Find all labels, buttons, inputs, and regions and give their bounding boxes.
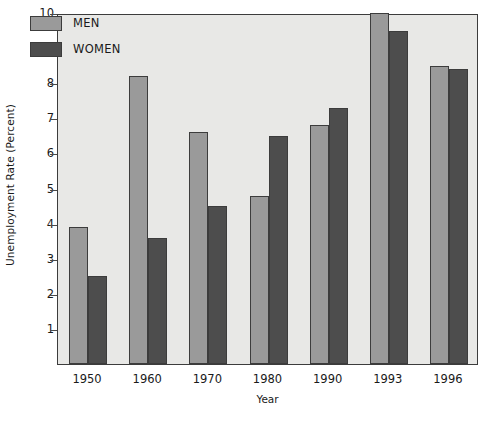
x-tick-label-1970: 1970 <box>177 372 237 386</box>
bar-1990-women <box>329 108 348 364</box>
x-tick-label-1996: 1996 <box>418 372 478 386</box>
legend-swatch-women <box>30 42 62 57</box>
y-tick-mark <box>50 154 57 155</box>
y-tick-mark <box>50 330 57 331</box>
bar-1993-women <box>389 31 408 364</box>
bar-1960-women <box>148 238 167 364</box>
bar-1950-men <box>69 227 88 364</box>
bar-1996-men <box>430 66 449 364</box>
y-tick-mark <box>50 225 57 226</box>
bar-1950-women <box>88 276 107 364</box>
x-tick-label-1990: 1990 <box>298 372 358 386</box>
legend-item-men: MEN <box>30 12 180 34</box>
bar-chart: Unemployment Rate (Percent) 12345678910 … <box>0 0 496 422</box>
legend-item-women: WOMEN <box>30 38 180 60</box>
legend-label: MEN <box>73 16 100 30</box>
y-tick-mark <box>50 190 57 191</box>
x-tick-label-1980: 1980 <box>238 372 298 386</box>
bar-1970-women <box>208 206 227 364</box>
bar-1996-women <box>449 69 468 364</box>
bar-1960-men <box>129 76 148 364</box>
bar-1970-men <box>189 132 208 364</box>
y-tick-mark <box>50 295 57 296</box>
y-tick-mark <box>50 260 57 261</box>
x-tick-label-1960: 1960 <box>117 372 177 386</box>
x-axis-title: Year <box>57 393 478 405</box>
legend-label: WOMEN <box>73 42 121 56</box>
y-tick-mark <box>50 119 57 120</box>
y-tick-mark <box>50 84 57 85</box>
x-tick-label-1950: 1950 <box>57 372 117 386</box>
plot-area <box>57 14 478 365</box>
y-axis-title-text: Unemployment Rate (Percent) <box>4 104 16 266</box>
bar-1993-men <box>370 13 389 364</box>
y-axis-title: Unemployment Rate (Percent) <box>0 0 20 370</box>
bar-1990-men <box>310 125 329 364</box>
x-tick-label-1993: 1993 <box>358 372 418 386</box>
chart-legend: MENWOMEN <box>30 12 180 64</box>
bar-1980-men <box>250 196 269 364</box>
bar-1980-women <box>269 136 288 364</box>
legend-swatch-men <box>30 16 62 31</box>
